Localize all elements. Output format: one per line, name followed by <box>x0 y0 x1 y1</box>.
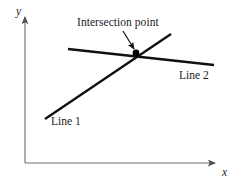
figure-canvas: Intersection point Line 2 Line 1 y x <box>0 0 240 181</box>
line-2-label: Line 2 <box>179 70 209 82</box>
x-axis-label: x <box>222 167 227 179</box>
line-2-stroke <box>68 49 214 65</box>
line-1-label: Line 1 <box>51 116 81 128</box>
axes-group <box>25 17 215 163</box>
annotation-leader-arrow <box>123 31 134 49</box>
intersection-point-annotation-label: Intersection point <box>77 17 159 29</box>
intersection-point-marker <box>133 50 140 57</box>
line-1-stroke <box>45 34 171 119</box>
y-axis-label: y <box>16 6 21 18</box>
